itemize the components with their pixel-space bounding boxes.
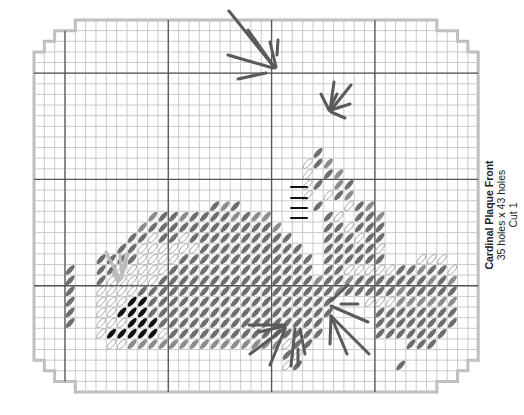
straight-stitch — [277, 40, 278, 55]
chart-cut-count: Cut 1 — [507, 160, 519, 269]
straight-stitch — [330, 316, 331, 344]
chart-title: Cardinal Plaque Front — [483, 160, 495, 269]
chart-caption: Cardinal Plaque Front 35 holes x 43 hole… — [483, 160, 519, 269]
chart-size: 35 holes x 43 holes — [495, 160, 507, 269]
pattern-chart — [0, 0, 524, 415]
straight-stitch — [120, 255, 122, 278]
